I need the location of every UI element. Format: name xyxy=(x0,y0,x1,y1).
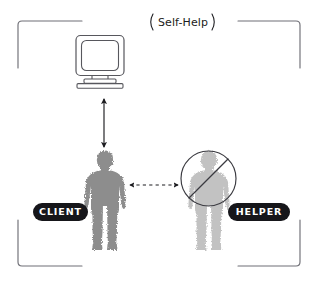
monitor-screen xyxy=(82,41,119,71)
diagram-canvas: Self-Help CLIENT HELPER xyxy=(0,0,314,281)
bracket-bottom-right xyxy=(238,220,300,266)
frame-corner-brackets xyxy=(18,21,300,266)
client-figure xyxy=(84,151,125,250)
client-head xyxy=(97,151,113,170)
helper-leg-left xyxy=(197,202,208,248)
helper-figure xyxy=(188,151,229,250)
helper-head xyxy=(201,151,217,170)
helper-leg-right xyxy=(211,202,222,248)
monitor-base-lower xyxy=(77,84,123,89)
client-foot-right xyxy=(107,244,117,250)
badge-client: CLIENT xyxy=(33,203,88,221)
monitor-base-upper xyxy=(84,79,116,83)
bracket-bottom-left xyxy=(18,220,82,266)
helper-foot-left xyxy=(196,244,207,250)
client-leg-right xyxy=(107,202,118,248)
client-leg-left xyxy=(93,202,104,248)
client-torso xyxy=(84,170,125,214)
badge-helper: HELPER xyxy=(228,203,290,221)
bracket-top-left xyxy=(18,21,82,68)
diagram-title: Self-Help xyxy=(152,13,214,31)
client-foot-left xyxy=(92,244,103,250)
bracket-top-right xyxy=(238,21,300,68)
helper-foot-right xyxy=(211,244,221,250)
self-help-diagram xyxy=(0,0,314,281)
computer-monitor-icon xyxy=(76,36,124,89)
